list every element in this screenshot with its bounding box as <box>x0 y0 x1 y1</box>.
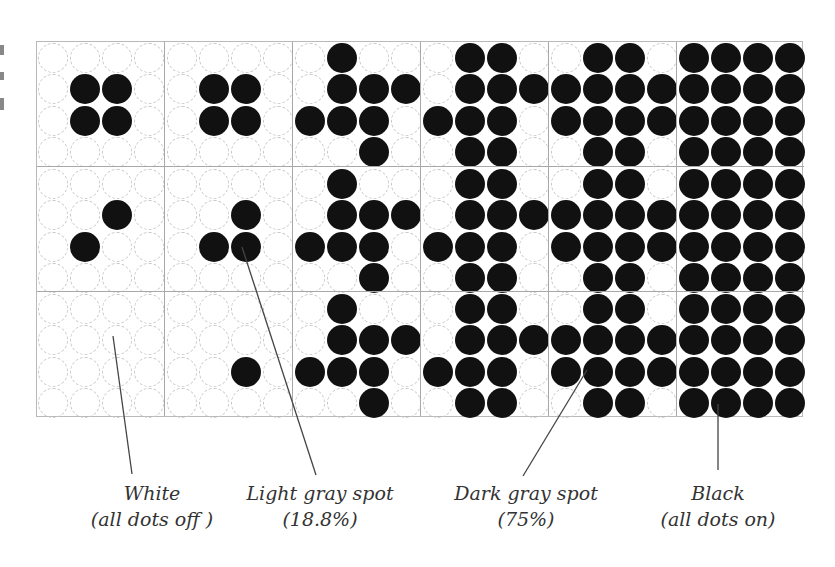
label-white-title: White <box>91 480 213 506</box>
label-dark-gray-spot: Dark gray spot (75%) <box>454 480 598 532</box>
leader-line-light-gray <box>242 247 316 475</box>
leader-line-dark-gray <box>523 370 587 476</box>
label-black: Black (all dots on) <box>660 480 775 532</box>
leader-line-white <box>113 336 132 474</box>
label-dark-gray-percent: (75%) <box>454 506 598 532</box>
label-light-gray-spot: Light gray spot (18.8%) <box>246 480 393 532</box>
halftone-figure: White (all dots off ) Light gray spot (1… <box>0 0 835 567</box>
label-white: White (all dots off ) <box>91 480 213 532</box>
label-dark-gray-title: Dark gray spot <box>454 480 598 506</box>
label-white-caption: (all dots off ) <box>91 506 213 532</box>
label-light-gray-percent: (18.8%) <box>246 506 393 532</box>
label-black-title: Black <box>660 480 775 506</box>
label-light-gray-title: Light gray spot <box>246 480 393 506</box>
label-black-caption: (all dots on) <box>660 506 775 532</box>
